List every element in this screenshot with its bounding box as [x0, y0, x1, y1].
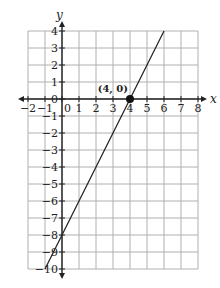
- coordinate-plane: −2−112345678043210−1−2−3−4−5−6−7−8−9−10x…: [0, 0, 220, 288]
- y-tick-label: 0: [51, 93, 58, 106]
- y-tick-label: 2: [51, 59, 58, 72]
- y-tick-label: 1: [51, 76, 58, 89]
- x-tick-label: 8: [195, 102, 202, 115]
- point-label: (4, 0): [98, 83, 128, 95]
- x-axis-arrow-right-icon: [201, 96, 207, 102]
- x-tick-label: 1: [76, 102, 83, 115]
- y-tick-label: −5: [42, 178, 58, 191]
- x-tick-label: 2: [93, 102, 100, 115]
- x-tick-label: 7: [178, 102, 185, 115]
- x-tick-label: 5: [144, 102, 151, 115]
- y-tick-label: −3: [42, 144, 58, 157]
- x-tick-label: 3: [110, 102, 117, 115]
- x-tick-label: −2: [20, 102, 36, 115]
- x-tick-label: 6: [161, 102, 168, 115]
- x-axis-label: x: [210, 92, 217, 106]
- point-marker: [126, 95, 134, 103]
- x-tick-label: 0: [64, 102, 71, 115]
- y-axis-arrow-down-icon: [59, 273, 65, 279]
- y-tick-label: −7: [42, 212, 58, 225]
- y-axis-label: y: [55, 8, 63, 22]
- y-tick-label: −2: [42, 127, 58, 140]
- y-tick-label: −4: [42, 161, 58, 174]
- y-tick-label: 3: [51, 42, 58, 55]
- y-tick-label: −6: [42, 195, 58, 208]
- y-tick-label: 4: [51, 25, 58, 38]
- y-tick-label: −1: [42, 110, 58, 123]
- y-tick-label: −8: [42, 229, 58, 242]
